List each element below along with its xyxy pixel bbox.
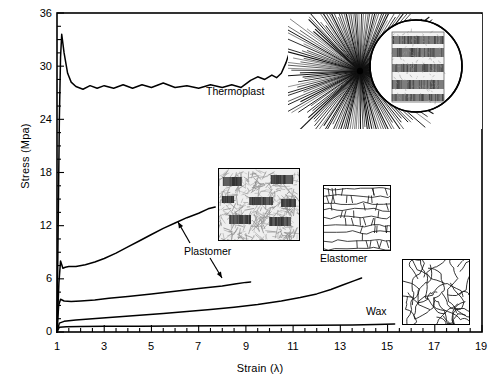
curve-label-thermoplast: Thermoplast: [206, 85, 264, 97]
chart-figure: Stress (Mpa) Strain (λ) 36 30 24 18 12 6…: [0, 0, 498, 386]
curve-plastomer-lower-: [57, 282, 251, 332]
plastomer-lamellae-inset: [218, 168, 300, 241]
wax-tangle-inset: [402, 259, 470, 325]
curve-label-plastomer: Plastomer: [184, 245, 231, 257]
curve-wax: [57, 324, 395, 332]
curve-label-elastomer: Elastomer: [320, 252, 367, 264]
curve-plastomer-upper-: [57, 207, 215, 332]
elastomer-network-inset: [323, 185, 391, 251]
curve-elastomer: [57, 278, 362, 332]
curve-label-wax: Wax: [366, 305, 387, 317]
thermoplast-spherulite-inset: [288, 14, 482, 129]
